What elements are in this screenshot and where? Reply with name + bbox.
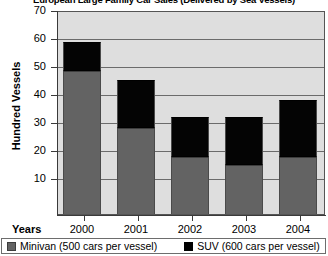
y-tick-30 — [51, 123, 57, 124]
bar-segment-suv-2001[interactable] — [117, 80, 155, 128]
bar-segment-suv-2003[interactable] — [225, 117, 263, 165]
bar-segment-minivan-2004[interactable] — [279, 157, 317, 214]
y-tick-40 — [51, 95, 57, 96]
chart-legend: Minivan (500 cars per vessel) SUV (600 c… — [1, 238, 326, 254]
x-tick-2000 — [84, 216, 85, 221]
legend-label-suv: SUV (600 cars per vessel) — [197, 240, 320, 252]
y-tick-label-20: 20 — [34, 145, 46, 156]
legend-swatch-suv-icon — [184, 242, 193, 251]
chart-figure: European Large Family Car Sales (Deliver… — [0, 0, 328, 256]
legend-swatch-minivan-icon — [7, 242, 16, 251]
bar-segment-minivan-2000[interactable] — [63, 71, 101, 214]
y-axis-title: Hundred Vessels — [10, 51, 22, 161]
bar-segment-minivan-2003[interactable] — [225, 165, 263, 214]
bar-segment-minivan-2002[interactable] — [171, 157, 209, 214]
y-tick-label-40: 40 — [34, 89, 46, 100]
y-tick-70 — [51, 11, 57, 12]
x-category-label-2003: 2003 — [220, 223, 268, 235]
legend-item-suv[interactable]: SUV (600 cars per vessel) — [184, 240, 320, 252]
y-axis-line — [57, 11, 58, 216]
y-tick-label-30: 30 — [34, 117, 46, 128]
bars-layer — [58, 12, 324, 214]
y-tick-label-70: 70 — [34, 5, 46, 16]
plot-area — [57, 11, 325, 215]
y-tick-label-60: 60 — [34, 33, 46, 44]
x-category-label-2000: 2000 — [58, 223, 106, 235]
y-tick-10 — [51, 179, 57, 180]
y-tick-label-50: 50 — [34, 61, 46, 72]
x-tick-2004 — [300, 216, 301, 221]
x-category-label-2001: 2001 — [112, 223, 160, 235]
x-tick-2001 — [138, 216, 139, 221]
x-category-label-2004: 2004 — [274, 223, 322, 235]
legend-label-minivan: Minivan (500 cars per vessel) — [20, 240, 157, 252]
x-category-label-2002: 2002 — [166, 223, 214, 235]
y-tick-label-10: 10 — [34, 173, 46, 184]
x-tick-2003 — [246, 216, 247, 221]
bar-segment-suv-2000[interactable] — [63, 42, 101, 71]
y-tick-20 — [51, 151, 57, 152]
bar-segment-suv-2004[interactable] — [279, 100, 317, 157]
y-tick-60 — [51, 39, 57, 40]
x-axis-title: Years — [12, 223, 41, 235]
legend-item-minivan[interactable]: Minivan (500 cars per vessel) — [7, 240, 157, 252]
bar-segment-suv-2002[interactable] — [171, 117, 209, 157]
y-tick-50 — [51, 67, 57, 68]
bar-segment-minivan-2001[interactable] — [117, 128, 155, 214]
x-tick-2002 — [192, 216, 193, 221]
chart-title: European Large Family Car Sales (Deliver… — [0, 0, 328, 5]
